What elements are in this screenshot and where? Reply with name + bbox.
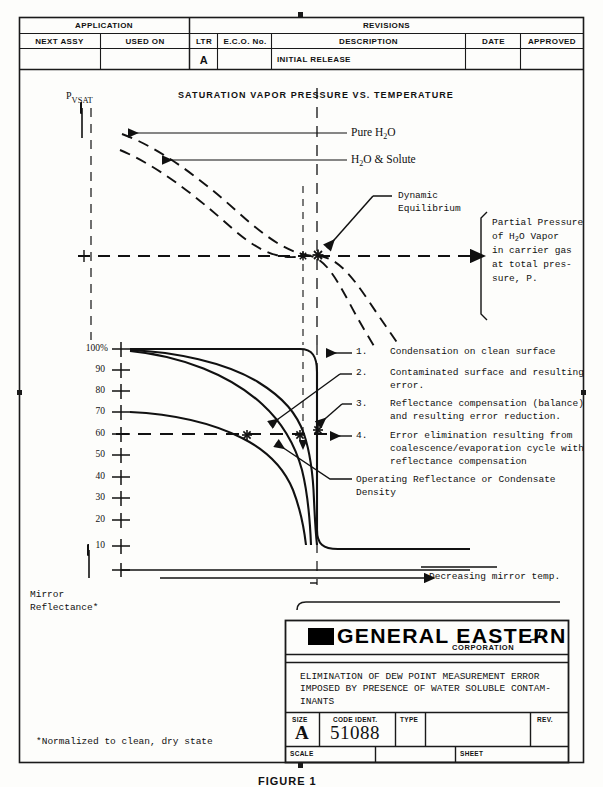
figure-caption: FIGURE 1 (258, 775, 317, 787)
legend-3-line-2: and resulting error reduction. (390, 411, 561, 424)
drawing-title-line-3: INANTS (300, 696, 334, 709)
sheet-label: SHEET (460, 750, 483, 757)
column-next-assy: NEXT ASSY (19, 37, 100, 46)
column-ltr: LTR (190, 37, 218, 46)
column-eco-no: E.C.O. No. (218, 37, 272, 46)
x-axis-label-lower: Decreasing mirror temp. (429, 571, 560, 584)
ytick-70: 70 (60, 406, 105, 416)
upper-curve-leaders (128, 133, 347, 160)
curve-2-contaminated (130, 350, 317, 545)
column-description: DESCRIPTION (272, 37, 465, 46)
upper-plot-axes (78, 88, 470, 345)
type-label: TYPE (400, 716, 418, 723)
ytick-20: 20 (60, 514, 105, 524)
ytick-90: 90 (60, 364, 105, 374)
code-ident-value: 51088 (330, 722, 380, 744)
label-h2o-solute: H2O & Solute (351, 153, 416, 165)
label-operating-reflectance: Operating Reflectance or Condensate Dens… (356, 473, 556, 499)
legend-1-line-1: Condensation on clean surface (390, 346, 555, 359)
legend-2-line-1: Contaminated surface and resulting (390, 367, 584, 380)
curve-pure-h2o (122, 134, 398, 344)
drawing-title-line-1: ELIMINATION OF DEW POINT MEASUREMENT ERR… (300, 670, 539, 683)
pvsat-p: P (66, 90, 72, 101)
y-axis-label-lower: Mirror Reflectance* (30, 588, 98, 614)
legend-2-line-2: error. (390, 380, 424, 393)
partial-pressure-bracket (481, 212, 487, 320)
column-used-on: USED ON (101, 37, 189, 46)
legend-4-line-3: reflectance compensation (390, 456, 527, 469)
ytick-60: 60 (60, 428, 105, 438)
legend-4-line-2: coalescence/evaporation cycle with (390, 443, 584, 456)
saturation-curves (120, 134, 398, 346)
label-dynamic-equilibrium: Dynamic Equilibrium (398, 190, 461, 215)
ytick-10: 10 (60, 540, 105, 550)
legend-3-num: 3. (356, 398, 367, 411)
revisions-header: REVISIONS (190, 21, 583, 30)
curve-3-compensation (130, 412, 306, 545)
ytick-100: 100% (60, 343, 108, 353)
company-logo: GENERAL EASTERN (308, 625, 554, 648)
revision-row-description: INITIAL RELEASE (277, 55, 351, 64)
logo-block-icon (308, 628, 334, 645)
ytick-40: 40 (60, 471, 105, 481)
label-pure-h2o: Pure H2O (351, 126, 396, 138)
chart-title: SATURATION VAPOR PRESSURE VS. TEMPERATUR… (178, 90, 454, 100)
ytick-80: 80 (60, 385, 105, 395)
legend-1-num: 1. (356, 346, 367, 359)
note-partial-pressure: Partial Pressure of H2O Vapor in carrier… (492, 216, 583, 286)
ytick-50: 50 (60, 449, 105, 459)
scale-label: SCALE (290, 750, 314, 757)
plot-corner-accent (297, 602, 560, 610)
y-axis-label-upper: PVSAT (66, 85, 93, 103)
legend-3-line-1: Reflectance compensation (balance) (390, 398, 584, 411)
legend-2-num: 2. (356, 367, 367, 380)
dynamic-equilibrium-leader (327, 196, 392, 248)
revision-row-ltr: A (190, 54, 218, 66)
rev-label: REV. (537, 716, 553, 723)
application-header: APPLICATION (19, 21, 189, 30)
legend-4-line-1: Error elimination resulting from (390, 430, 572, 443)
engineering-drawing-sheet: APPLICATION NEXT ASSY USED ON REVISIONS … (0, 0, 603, 787)
ytick-30: 30 (60, 492, 105, 502)
company-subtitle: CORPORATION (452, 643, 514, 652)
footnote-normalized: *Normalized to clean, dry state (36, 736, 213, 749)
legend-4-num: 4. (356, 430, 367, 443)
column-approved: APPROVED (521, 37, 583, 46)
size-value: A (295, 722, 309, 744)
drawing-title-line-2: IMPOSED BY PRESENCE OF WATER SOLUBLE CON… (300, 683, 551, 696)
curve-h2o-solute (120, 150, 374, 346)
column-date: DATE (466, 37, 521, 46)
pvsat-sub: VSAT (72, 95, 93, 105)
